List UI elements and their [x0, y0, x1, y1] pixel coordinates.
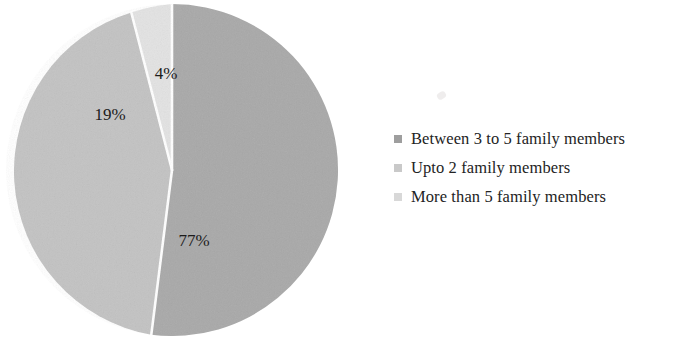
- legend-swatch-icon: [394, 193, 402, 201]
- legend-swatch-icon: [394, 135, 402, 143]
- legend-item-label: Upto 2 family members: [411, 158, 570, 178]
- pie-chart: 77% 19% 4%: [6, 2, 340, 336]
- pie-chart-figure: 77% 19% 4% Between 3 to 5 family members…: [0, 0, 688, 347]
- pie-chart-svg: 77% 19% 4%: [6, 2, 340, 336]
- legend-item-label: Between 3 to 5 family members: [411, 129, 625, 149]
- chart-legend: Between 3 to 5 family members Upto 2 fam…: [394, 124, 684, 211]
- legend-swatch-icon: [394, 164, 402, 172]
- legend-item-label: More than 5 family members: [411, 187, 606, 207]
- legend-item-more-than-5[interactable]: More than 5 family members: [394, 182, 684, 211]
- slice-value-label-4: 4%: [155, 64, 178, 83]
- slice-value-label-19: 19%: [94, 105, 125, 124]
- scan-artifact-speck: [436, 90, 447, 101]
- legend-item-upto-2[interactable]: Upto 2 family members: [394, 153, 684, 182]
- scan-grain-texture: [6, 2, 340, 336]
- slice-value-label-77: 77%: [178, 231, 209, 250]
- legend-item-between-3-to-5[interactable]: Between 3 to 5 family members: [394, 124, 684, 153]
